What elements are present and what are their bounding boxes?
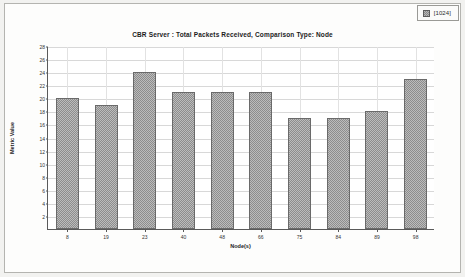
bar-66[interactable] (249, 92, 272, 229)
x-tick-label: 23 (142, 234, 148, 240)
x-tick-mark (67, 229, 68, 232)
y-tick-mark (46, 138, 48, 139)
x-tick-label: 40 (181, 234, 187, 240)
chart-title: CBR Server : Total Packets Received, Com… (0, 31, 465, 38)
x-tick-label: 84 (335, 234, 341, 240)
y-tick-label: 20 (39, 96, 45, 102)
y-tick-mark (46, 86, 48, 87)
y-tick-mark (46, 125, 48, 126)
y-tick-mark (46, 151, 48, 152)
y-tick-mark (46, 164, 48, 165)
x-tick-label: 48 (219, 234, 225, 240)
y-tick-label: 24 (39, 70, 45, 76)
series-swatch-icon (423, 10, 430, 17)
x-tick-mark (377, 229, 378, 232)
y-tick-mark (46, 203, 48, 204)
legend-series-label: [1024] (434, 9, 451, 17)
bar-98[interactable] (404, 79, 427, 229)
y-tick-label: 26 (39, 57, 45, 63)
x-tick-mark (416, 229, 417, 232)
x-tick-label: 19 (103, 234, 109, 240)
bar-89[interactable] (365, 111, 388, 229)
x-tick-label: 66 (258, 234, 264, 240)
x-tick-mark (261, 229, 262, 232)
plot-area: 2468101214161820222426288192340486675848… (47, 47, 434, 230)
y-tick-label: 12 (39, 149, 45, 155)
x-tick-label: 98 (413, 234, 419, 240)
x-tick-mark (106, 229, 107, 232)
bar-48[interactable] (211, 92, 234, 229)
y-tick-label: 28 (39, 44, 45, 50)
x-tick-mark (145, 229, 146, 232)
bar-84[interactable] (327, 118, 350, 229)
y-tick-mark (46, 112, 48, 113)
y-tick-mark (46, 47, 48, 48)
x-tick-label: 89 (374, 234, 380, 240)
bar-23[interactable] (133, 72, 156, 229)
y-tick-mark (46, 60, 48, 61)
y-tick-label: 16 (39, 122, 45, 128)
y-tick-label: 22 (39, 83, 45, 89)
y-tick-mark (46, 73, 48, 74)
bar-40[interactable] (172, 92, 195, 229)
bar-75[interactable] (288, 118, 311, 229)
plot-inner: 2468101214161820222426288192340486675848… (48, 47, 434, 229)
y-tick-label: 2 (42, 214, 45, 220)
chart-legend[interactable]: [1024] (417, 5, 459, 21)
y-tick-label: 14 (39, 136, 45, 142)
y-tick-mark (46, 190, 48, 191)
y-tick-label: 10 (39, 162, 45, 168)
y-tick-label: 8 (42, 175, 45, 181)
y-tick-label: 4 (42, 201, 45, 207)
chart-window: [1024] CBR Server : Total Packets Receiv… (0, 0, 465, 277)
bar-8[interactable] (56, 98, 79, 229)
y-tick-label: 18 (39, 109, 45, 115)
x-tick-mark (183, 229, 184, 232)
x-tick-label: 8 (66, 234, 69, 240)
x-tick-mark (300, 229, 301, 232)
y-tick-mark (46, 99, 48, 100)
x-tick-mark (222, 229, 223, 232)
y-tick-label: 6 (42, 188, 45, 194)
y-tick-mark (46, 216, 48, 217)
y-axis-title: Metric Value (9, 122, 15, 154)
y-tick-mark (46, 177, 48, 178)
x-tick-mark (338, 229, 339, 232)
x-tick-label: 75 (297, 234, 303, 240)
x-axis-title: Node(s) (47, 243, 434, 249)
bar-19[interactable] (95, 105, 118, 229)
